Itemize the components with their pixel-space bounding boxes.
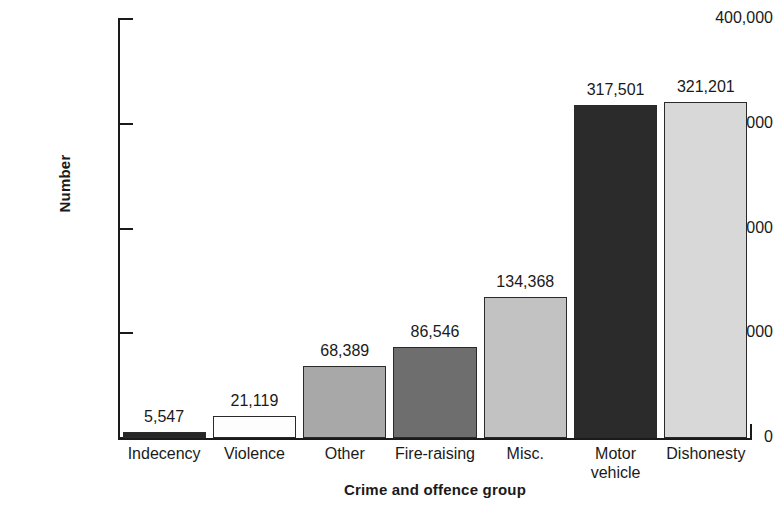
y-axis-tick-label: 400,000 [661,9,773,27]
y-axis-title: Number [56,124,73,244]
bar-value-label: 68,389 [290,342,400,360]
bar-value-label: 21,119 [199,392,309,410]
y-axis-tick [118,228,133,230]
y-axis-tick [118,332,133,334]
x-axis-title: Crime and offence group [118,481,752,498]
x-axis-spine [118,438,752,440]
bar [213,416,296,438]
bar [574,105,657,438]
y-axis-tick [118,123,133,125]
bar-value-label: 321,201 [651,78,761,96]
y-axis-tick [118,18,133,20]
x-axis-category-label: Dishonesty [649,444,763,463]
x-axis-end-tick [750,424,752,440]
bar [484,297,567,438]
bar-value-label: 134,368 [470,273,580,291]
bar-chart: Number 0100,000200,000300,000400,000 5,5… [0,0,773,517]
bar-value-label: 5,547 [109,408,219,426]
bar [664,102,747,438]
bar-value-label: 86,546 [380,323,490,341]
bar [393,347,476,438]
bar [303,366,386,438]
